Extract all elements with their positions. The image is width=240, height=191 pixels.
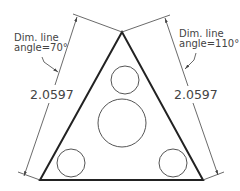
left-extension-line-top [73, 14, 122, 32]
triangle-outline [40, 32, 203, 180]
drawing-canvas: 2.0597 Dim. line angle=70° 2.0597 Dim. l… [0, 0, 240, 191]
left-extension-line-bottom [18, 172, 40, 180]
left-dimension-line-lower [24, 103, 49, 176]
center-hole-circle [98, 99, 146, 147]
right-note-line2: angle=110° [179, 38, 239, 49]
bottom-right-hole-circle [159, 149, 187, 177]
right-dimension-value: 2.0597 [174, 87, 218, 102]
right-extension-line-bottom [203, 172, 224, 180]
bottom-left-hole-circle [57, 149, 85, 177]
left-dimension-value: 2.0597 [30, 87, 74, 102]
left-note-line2: angle=70° [14, 42, 68, 53]
top-hole-circle [111, 66, 139, 94]
right-extension-line-top [122, 15, 170, 32]
right-dimension-line-lower [193, 103, 218, 175]
left-leader-line [42, 57, 58, 72]
right-leader-line [185, 53, 196, 69]
